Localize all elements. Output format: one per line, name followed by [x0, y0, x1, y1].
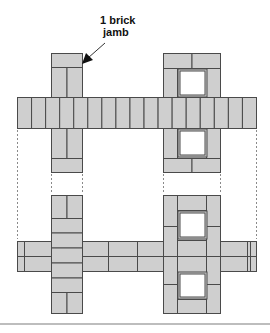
- upper-wall-header-brick: [158, 98, 172, 129]
- right-jamb-upper-brick: [164, 54, 193, 69]
- right-jamb-upper-brick: [192, 54, 221, 69]
- left-jamb-upper-header-bottom: [52, 159, 83, 173]
- left-jamb-lower-header: [52, 233, 83, 248]
- lower-wall-stretcher: [138, 257, 164, 272]
- left-jamb-lower-header: [52, 278, 83, 293]
- lower-window-opening-top: [180, 213, 205, 237]
- left-jamb-lower-header: [52, 248, 83, 263]
- upper-wall-header-brick: [144, 98, 158, 129]
- bottom-divider: [0, 323, 270, 325]
- lower-wall-stretcher: [25, 242, 52, 257]
- annotation-line-1: 1 brick: [100, 14, 140, 26]
- lower-wall-stretcher: [138, 242, 164, 257]
- right-jamb-upper-brick: [164, 159, 193, 173]
- left-jamb-lower-stretcher: [67, 196, 83, 219]
- right-jamb-lower-side: [207, 285, 221, 314]
- upper-wall-header-brick: [130, 98, 144, 129]
- right-jamb-lower-mid: [178, 196, 207, 211]
- lower-wall-stretcher: [109, 242, 138, 257]
- upper-wall-header-brick: [102, 98, 116, 129]
- right-jamb-lower-mid: [178, 300, 207, 314]
- right-jamb-lower-side: [207, 196, 221, 227]
- upper-wall-header-brick: [242, 98, 256, 129]
- upper-window-opening-top: [180, 71, 205, 95]
- upper-wall-header-brick: [18, 98, 32, 129]
- lower-wall-closer: [18, 242, 25, 257]
- left-jamb-lower-header: [52, 219, 83, 234]
- left-jamb-upper-stretcher: [67, 68, 83, 98]
- right-jamb-lower-mid: [178, 257, 207, 273]
- lower-window-opening-bottom: [180, 274, 205, 297]
- lower-wall-stretcher: [221, 242, 248, 257]
- right-jamb-upper-side: [207, 129, 221, 159]
- right-jamb-upper-side: [164, 69, 178, 98]
- right-jamb-lower-side: [164, 227, 178, 257]
- lower-wall-closer: [18, 257, 25, 272]
- lower-wall-stretcher: [83, 242, 109, 257]
- upper-wall-header-brick: [60, 98, 74, 129]
- upper-wall-header-brick: [88, 98, 102, 129]
- left-jamb-lower-stretcher: [52, 293, 68, 314]
- upper-wall-header-brick: [228, 98, 242, 129]
- right-jamb-lower-side: [207, 227, 221, 257]
- upper-wall-header-brick: [186, 98, 200, 129]
- right-jamb-upper-brick: [192, 159, 221, 173]
- upper-window-opening-bottom: [180, 131, 205, 155]
- right-jamb-upper-side: [207, 69, 221, 98]
- lower-wall-closer: [251, 242, 257, 257]
- lower-wall-stretcher: [83, 257, 109, 272]
- upper-wall-header-brick: [32, 98, 46, 129]
- right-jamb-upper-side: [164, 129, 178, 159]
- left-jamb-lower-header: [52, 263, 83, 278]
- upper-wall-header-brick: [74, 98, 88, 129]
- jamb-annotation-label: 1 brick jamb: [100, 14, 140, 38]
- left-jamb-lower-stretcher: [52, 196, 68, 219]
- left-jamb-upper-stretcher: [52, 129, 68, 159]
- brick-jamb-diagram: [0, 0, 270, 333]
- upper-wall-header-brick: [214, 98, 228, 129]
- arrow-shaft: [88, 43, 105, 58]
- left-jamb-lower-stretcher: [67, 293, 83, 314]
- right-jamb-lower-mid: [178, 241, 207, 257]
- right-jamb-lower-side: [164, 257, 178, 285]
- left-jamb-upper-header-top: [52, 54, 83, 68]
- annotation-arrow: [82, 43, 105, 64]
- left-jamb-upper-stretcher: [52, 68, 68, 98]
- right-jamb-lower-side: [164, 196, 178, 227]
- right-jamb-lower-side: [207, 257, 221, 285]
- right-jamb-lower-side: [164, 285, 178, 314]
- left-jamb-upper-stretcher: [67, 129, 83, 159]
- lower-wall-closer: [251, 257, 257, 272]
- upper-wall-header-brick: [46, 98, 60, 129]
- upper-wall-header-brick: [116, 98, 130, 129]
- upper-wall-header-brick: [172, 98, 186, 129]
- lower-wall-stretcher: [109, 257, 138, 272]
- lower-wall-stretcher: [25, 257, 52, 272]
- lower-wall-stretcher: [221, 257, 248, 272]
- upper-wall-header-brick: [200, 98, 214, 129]
- annotation-line-2: jamb: [100, 26, 140, 38]
